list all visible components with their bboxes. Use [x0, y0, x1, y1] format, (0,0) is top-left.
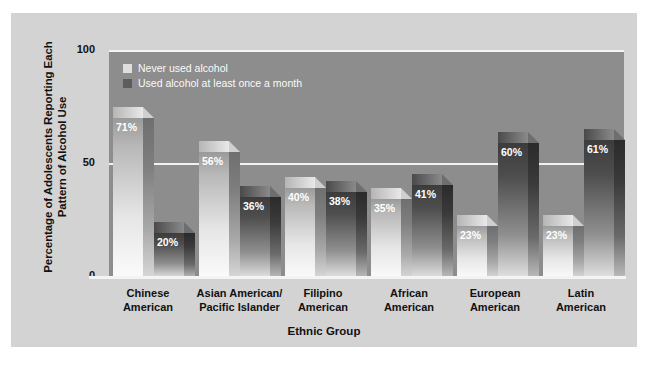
bar-side-face	[184, 233, 195, 278]
bar-corner	[401, 188, 412, 199]
category-label-latin-american: Latin American	[529, 286, 633, 314]
bar-top-face	[326, 181, 356, 192]
bar-european-american-used-monthly: 60%	[498, 143, 528, 278]
bar-corner	[184, 222, 195, 233]
y-tick-100: 100	[61, 43, 95, 55]
y-tick-50: 50	[61, 156, 95, 168]
bar-corner	[487, 215, 498, 226]
bar-value-label: 35%	[374, 202, 395, 214]
legend-label-never-used: Never used alcohol	[138, 62, 228, 74]
bar-corner	[270, 186, 281, 197]
bar-latin-american-never-used: 23%	[543, 226, 573, 278]
bar-value-label: 40%	[288, 191, 309, 203]
bar-value-label: 23%	[546, 229, 567, 241]
bar-value-label: 36%	[243, 200, 264, 212]
bar-side-face	[614, 140, 625, 278]
bar-top-face	[154, 222, 184, 233]
bar-front-face	[113, 118, 143, 278]
gridline-50	[109, 163, 624, 165]
category-line-1: Latin	[529, 286, 633, 300]
bar-side-face	[315, 188, 326, 278]
bar-corner	[573, 215, 584, 226]
bar-african-american-never-used: 35%	[371, 199, 401, 278]
x-axis-title: Ethnic Group	[11, 325, 637, 337]
bar-corner	[356, 181, 367, 192]
bar-side-face	[356, 192, 367, 278]
bar-top-face	[543, 215, 573, 226]
bar-corner	[229, 141, 240, 152]
bar-side-face	[528, 143, 539, 278]
bar-corner	[143, 107, 154, 118]
bar-top-face	[240, 186, 270, 197]
bar-filipino-american-never-used: 40%	[285, 188, 315, 278]
bar-chinese-american-never-used: 71%	[113, 118, 143, 278]
bar-side-face	[401, 199, 412, 278]
bar-value-label: 60%	[501, 146, 522, 158]
bar-top-face	[412, 174, 442, 185]
bar-front-face	[199, 152, 229, 278]
chart-figure: Percentage of Adolescents Reporting Each…	[0, 0, 649, 367]
category-line-2: American	[529, 300, 633, 314]
legend-item-used-monthly: Used alcohol at least once a month	[123, 77, 302, 89]
legend-swatch-light-icon	[123, 64, 132, 73]
bar-top-face	[584, 129, 614, 140]
bar-top-face	[199, 141, 229, 152]
chart-legend: Never used alcohol Used alcohol at least…	[123, 62, 302, 92]
bar-side-face	[487, 226, 498, 278]
bar-filipino-american-used-monthly: 38%	[326, 192, 356, 278]
bar-top-face	[457, 215, 487, 226]
bar-value-label: 71%	[116, 121, 137, 133]
bar-value-label: 61%	[587, 143, 608, 155]
bar-side-face	[270, 197, 281, 278]
bar-value-label: 23%	[460, 229, 481, 241]
bar-european-american-never-used: 23%	[457, 226, 487, 278]
bar-side-face	[573, 226, 584, 278]
bar-side-face	[143, 118, 154, 278]
plot-area: Never used alcohol Used alcohol at least…	[109, 50, 624, 278]
legend-swatch-dark-icon	[123, 79, 132, 88]
bar-corner	[614, 129, 625, 140]
y-tick-0: 0	[61, 269, 95, 281]
bar-corner	[315, 177, 326, 188]
bar-top-face	[498, 132, 528, 143]
bar-top-face	[285, 177, 315, 188]
x-axis-baseline	[89, 276, 626, 279]
bar-side-face	[229, 152, 240, 278]
bar-chinese-american-used-monthly: 20%	[154, 233, 184, 278]
bar-top-face	[371, 188, 401, 199]
bar-value-label: 56%	[202, 155, 223, 167]
bar-side-face	[442, 185, 453, 278]
bar-value-label: 38%	[329, 195, 350, 207]
bar-latin-american-used-monthly: 61%	[584, 140, 614, 278]
legend-item-never-used: Never used alcohol	[123, 62, 302, 74]
plot-inner: Never used alcohol Used alcohol at least…	[109, 52, 624, 278]
bar-asian-american-pacific-islander-never-used: 56%	[199, 152, 229, 278]
bar-value-label: 41%	[415, 188, 436, 200]
bar-corner	[442, 174, 453, 185]
bar-value-label: 20%	[157, 236, 178, 248]
bar-top-face	[113, 107, 143, 118]
bar-asian-american-pacific-islander-used-monthly: 36%	[240, 197, 270, 278]
bar-corner	[528, 132, 539, 143]
legend-label-used-monthly: Used alcohol at least once a month	[138, 77, 302, 89]
chart-panel: Percentage of Adolescents Reporting Each…	[11, 13, 637, 347]
bar-front-face	[498, 143, 528, 278]
bar-front-face	[584, 140, 614, 278]
bar-african-american-used-monthly: 41%	[412, 185, 442, 278]
